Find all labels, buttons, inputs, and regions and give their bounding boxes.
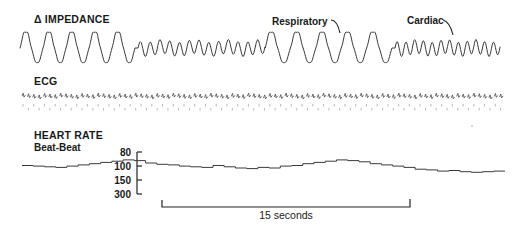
ecg-beat [312,94,315,98]
ecg-beat [172,93,175,97]
ecg-beat [446,94,449,98]
ecg-beat [167,95,170,99]
ecg-beat [258,94,261,98]
ecg-beat [489,95,492,99]
ecg-beat [344,93,347,97]
ecg-beat [135,93,138,97]
ecg-beat [129,95,132,99]
ecg-beat [290,94,293,98]
ecg-beat [366,94,369,98]
ecg-beat [457,93,460,97]
ecg-beat [500,94,503,98]
ecg-beat [54,95,57,99]
y-tick-label-150: 150 [114,175,131,186]
ecg-artifact-dot [471,125,472,126]
physiological-recording-figure: Δ IMPEDANCE Respiratory Cardiac ECG HEAR… [0,0,520,229]
ecg-beat [430,95,433,99]
heart-rate-axis: 80 100 150 300 [114,147,142,200]
ecg-beat [360,93,363,97]
ecg-beat [205,95,208,99]
ecg-beat [81,93,84,97]
ecg-beat [392,95,395,99]
ecg-beat [296,94,299,98]
respiratory-pointer [331,20,340,33]
heart-rate-panel: HEART RATE Beat-Beat 80 100 150 300 [22,129,505,200]
ecg-beat [226,95,229,99]
ecg-beat [221,94,224,98]
ecg-beat [49,94,52,98]
ecg-beat [494,93,497,97]
y-tick-label-100: 100 [114,161,131,172]
ecg-beat [86,94,89,98]
ecg-beat [151,95,154,99]
ecg-beat [484,94,487,98]
ecg-beat [419,93,422,97]
ecg-beat [398,93,401,97]
ecg-beat [183,94,186,98]
ecg-beat [376,95,379,99]
ecg-beat [188,95,191,99]
impedance-panel: Δ IMPEDANCE Respiratory Cardiac [20,13,500,63]
ecg-beat [467,95,470,99]
ecg-beat [285,93,288,97]
ecg-beat [27,94,30,98]
ecg-beat [22,93,25,97]
impedance-trace [20,32,500,63]
ecg-trace [22,93,503,110]
ecg-beat [425,94,428,98]
y-tick-label-300: 300 [114,189,131,200]
ecg-beat [306,93,309,97]
ecg-beat [76,95,79,99]
ecg-beat [97,93,100,97]
ecg-beat [38,95,41,99]
ecg-beat [403,94,406,98]
ecg-beat [414,95,417,99]
ecg-beat [162,94,165,98]
ecg-beat [323,93,326,97]
ecg-beat [451,95,454,99]
ecg-beat [194,93,197,97]
ecg-beat [387,94,390,98]
ecg-beat [269,93,272,97]
ecg-beat [280,95,283,99]
ecg-beat [113,95,116,99]
ecg-beat [247,93,250,97]
ecg-beat [124,94,127,98]
ecg-beat [371,94,374,98]
ecg-beat [215,94,218,98]
ecg-beat [33,94,36,98]
respiratory-annotation: Respiratory [272,16,328,27]
ecg-beat [156,93,159,97]
ecg-beat [435,93,438,97]
ecg-beat [119,93,122,97]
ecg-beat [473,93,476,97]
ecg-beat [301,95,304,99]
ecg-beat [355,95,358,99]
scale-bar-line [162,199,410,207]
ecg-beat [441,94,444,98]
ecg-beat [92,95,95,99]
ecg-beat [274,94,277,98]
cardiac-annotation: Cardiac [407,15,444,26]
ecg-beat [210,93,213,97]
time-scale-bar: 15 seconds [162,199,410,221]
ecg-beat [478,94,481,98]
ecg-beat [65,94,68,98]
ecg-beat [108,94,111,98]
ecg-beat [145,94,148,98]
heart-rate-label: HEART RATE [34,129,103,141]
ecg-beat [328,94,331,98]
ecg-beat [103,94,106,98]
ecg-beat [140,94,143,98]
ecg-beat [349,94,352,98]
ecg-beat [60,93,63,97]
ecg-panel: ECG [22,75,503,127]
ecg-beat [382,93,385,97]
ecg-beat [339,95,342,99]
ecg-beat [408,94,411,98]
impedance-label: Δ IMPEDANCE [34,13,110,25]
ecg-beat [264,95,267,99]
scale-bar-label: 15 seconds [259,209,313,221]
ecg-beat [462,94,465,98]
ecg-beat [178,94,181,98]
